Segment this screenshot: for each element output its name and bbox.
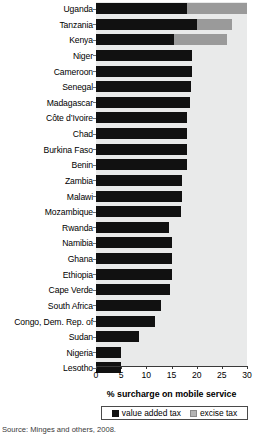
category-label: Chad (73, 127, 93, 141)
category-label: Mozambique (45, 205, 93, 219)
bar-segment-value-added-tax (96, 316, 155, 327)
bar-row: Congo, Dem. Rep. of (0, 315, 260, 329)
x-tick-label: 15 (167, 370, 177, 380)
stacked-bar (96, 237, 172, 248)
bar-segment-value-added-tax (96, 206, 181, 217)
stacked-bar (96, 112, 187, 123)
bar-row: Côte d’Ivoire (0, 111, 260, 125)
bar-segment-value-added-tax (96, 97, 190, 108)
x-tick (96, 366, 97, 369)
bar-row: Chad (0, 127, 260, 141)
legend-swatch-excise-tax (190, 410, 197, 417)
legend-label-value-added-tax: value added tax (122, 409, 181, 418)
bar-row: Kenya (0, 33, 260, 47)
chart-legend: value added tax excise tax (101, 406, 248, 420)
stacked-bar (96, 34, 227, 45)
x-tick-label: 10 (142, 370, 152, 380)
stacked-bar (96, 19, 232, 30)
bar-segment-value-added-tax (96, 284, 170, 295)
x-tick-label: 20 (192, 370, 202, 380)
category-label: Cameroon (54, 65, 93, 79)
x-tick (197, 366, 198, 369)
bar-segment-value-added-tax (96, 237, 172, 248)
bar-row: Uganda (0, 2, 260, 16)
category-label: Kenya (69, 33, 93, 47)
x-tick (146, 366, 147, 369)
bar-row: South Africa (0, 299, 260, 313)
bar-row: Cape Verde (0, 283, 260, 297)
bar-row: Mozambique (0, 205, 260, 219)
stacked-bar (96, 128, 187, 139)
category-label: Congo, Dem. Rep. of (14, 315, 93, 329)
bar-row: Madagascar (0, 96, 260, 110)
bar-segment-value-added-tax (96, 144, 187, 155)
category-label: Malawi (67, 190, 93, 204)
bar-segment-value-added-tax (96, 331, 139, 342)
stacked-bar (96, 300, 161, 311)
bar-segment-excise-tax (197, 19, 232, 30)
stacked-bar (96, 206, 181, 217)
category-label: Benin (72, 158, 93, 172)
category-label: South Africa (48, 299, 93, 313)
category-label: Cape Verde (49, 283, 93, 297)
category-label: Nigeria (66, 346, 93, 360)
bar-rows: UgandaTanzaniaKenyaNigerCameroonSenegalM… (0, 2, 260, 366)
bar-segment-value-added-tax (96, 34, 174, 45)
bar-row: Tanzania (0, 18, 260, 32)
stacked-bar (96, 222, 169, 233)
stacked-bar (96, 97, 190, 108)
category-label: Madagascar (47, 96, 93, 110)
bar-row: Burkina Faso (0, 143, 260, 157)
category-label: Zambia (65, 174, 93, 188)
bar-segment-value-added-tax (96, 112, 187, 123)
legend-item-excise-tax: excise tax (190, 409, 237, 418)
category-label: Ghana (68, 252, 93, 266)
x-tick (121, 366, 122, 369)
stacked-bar (96, 175, 182, 186)
bar-row: Ghana (0, 252, 260, 266)
bar-segment-value-added-tax (96, 81, 191, 92)
bar-row: Namibia (0, 236, 260, 250)
bar-segment-value-added-tax (96, 66, 192, 77)
stacked-bar (96, 81, 191, 92)
bar-segment-value-added-tax (96, 300, 161, 311)
bar-row: Malawi (0, 190, 260, 204)
x-tick-label: 25 (217, 370, 227, 380)
legend-item-value-added-tax: value added tax (112, 409, 181, 418)
stacked-bar (96, 3, 247, 14)
stacked-bar (96, 144, 187, 155)
bar-row: Niger (0, 49, 260, 63)
stacked-bar (96, 66, 192, 77)
stacked-bar (96, 50, 192, 61)
x-tick-label: 5 (119, 370, 124, 380)
category-label: Namibia (62, 236, 93, 250)
bar-row: Nigeria (0, 346, 260, 360)
bar-segment-value-added-tax (96, 159, 187, 170)
bar-segment-value-added-tax (96, 19, 197, 30)
category-label: Ethiopia (63, 268, 93, 282)
bar-segment-value-added-tax (96, 128, 187, 139)
stacked-bar (96, 269, 172, 280)
bar-segment-value-added-tax (96, 175, 182, 186)
category-label: Tanzania (59, 18, 93, 32)
category-label: Côte d’Ivoire (46, 111, 93, 125)
x-axis-title: % surcharge on mobile service (96, 389, 247, 399)
stacked-bar (96, 191, 182, 202)
bar-row: Rwanda (0, 221, 260, 235)
bar-segment-value-added-tax (96, 269, 172, 280)
category-label: Sudan (69, 330, 93, 344)
x-tick-label: 30 (242, 370, 252, 380)
x-tick-label: 0 (94, 370, 99, 380)
category-label: Niger (73, 49, 93, 63)
x-tick (172, 366, 173, 369)
stacked-bar (96, 331, 139, 342)
bar-segment-excise-tax (187, 3, 247, 14)
source-note: Source: Minges and others, 2008. (2, 425, 116, 434)
bar-segment-value-added-tax (96, 253, 172, 264)
bar-segment-value-added-tax (96, 222, 169, 233)
category-label: Burkina Faso (44, 143, 93, 157)
stacked-bar (96, 347, 121, 358)
bar-segment-value-added-tax (96, 347, 121, 358)
bar-row: Zambia (0, 174, 260, 188)
